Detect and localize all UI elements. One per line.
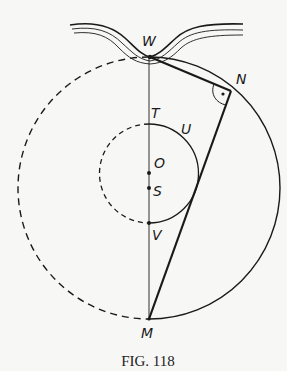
label-S: S <box>153 183 162 199</box>
outer-circle-dashed-half <box>18 57 149 319</box>
figure-118-diagram: W N T U O S V M FIG. 118 <box>0 0 287 371</box>
inner-circle-solid-half <box>149 124 199 223</box>
chord-WN <box>150 57 231 91</box>
label-U: U <box>181 121 191 137</box>
label-O: O <box>154 155 165 171</box>
figure-caption: FIG. 118 <box>121 353 175 369</box>
point-S <box>147 186 151 190</box>
point-O <box>147 171 151 175</box>
label-T: T <box>151 105 161 121</box>
surface-bands <box>70 24 243 64</box>
point-W <box>148 55 152 59</box>
point-M <box>147 317 150 320</box>
inner-circle-dashed-half <box>100 124 150 223</box>
label-W: W <box>142 33 157 49</box>
right-angle-dot <box>221 92 224 95</box>
label-N: N <box>236 71 247 87</box>
point-V <box>147 221 151 225</box>
label-V: V <box>152 227 163 243</box>
label-M: M <box>141 325 153 341</box>
